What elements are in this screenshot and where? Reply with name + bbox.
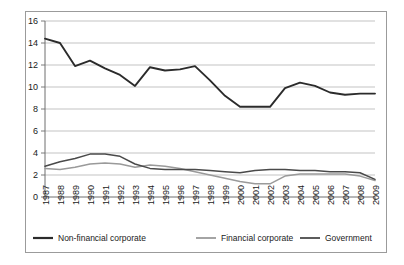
x-tick-label: 2006 [326, 185, 336, 205]
series-group [45, 39, 375, 184]
x-tick-label: 2005 [311, 185, 321, 205]
x-tick-label: 1998 [206, 185, 216, 205]
x-tick-label: 1990 [86, 185, 96, 205]
x-tick-label: 2008 [356, 185, 366, 205]
series-line [45, 39, 375, 107]
x-tick-label: 1993 [131, 185, 141, 205]
y-tick-label: 12 [28, 60, 38, 70]
x-tick-label: 1997 [191, 185, 201, 205]
x-tick-label: 2003 [281, 185, 291, 205]
line-chart: 0246810121416 19871988198919901991199219… [0, 0, 404, 265]
x-tick-label: 1995 [161, 185, 171, 205]
series-line [45, 163, 375, 184]
y-axis-ticks-group [41, 21, 45, 197]
x-tick-label: 2004 [296, 185, 306, 205]
y-tick-label: 14 [28, 38, 38, 48]
legend-label: Government [325, 233, 372, 243]
y-tick-label: 2 [33, 170, 38, 180]
x-tick-label: 1992 [116, 185, 126, 205]
x-tick-label: 1989 [71, 185, 81, 205]
x-tick-label: 1999 [221, 185, 231, 205]
y-tick-label: 10 [28, 82, 38, 92]
chart-legend: Non-financial corporateFinancial corpora… [33, 233, 372, 243]
x-tick-label: 2009 [371, 185, 381, 205]
y-tick-label: 4 [33, 148, 38, 158]
x-tick-label: 1987 [41, 185, 51, 205]
y-axis-labels-group: 0246810121416 [28, 16, 38, 202]
x-tick-label: 2001 [251, 185, 261, 205]
x-tick-label: 1994 [146, 185, 156, 205]
x-tick-label: 1988 [56, 185, 66, 205]
x-tick-label: 1991 [101, 185, 111, 205]
x-tick-label: 2007 [341, 185, 351, 205]
y-tick-label: 8 [33, 104, 38, 114]
x-tick-label: 2002 [266, 185, 276, 205]
x-tick-label: 2000 [236, 185, 246, 205]
y-tick-label: 6 [33, 126, 38, 136]
y-tick-label: 0 [33, 192, 38, 202]
x-axis-labels-group: 1987198819891990199119921993199419951996… [41, 185, 381, 205]
chart-figure: 0246810121416 19871988198919901991199219… [0, 0, 404, 265]
x-tick-label: 1996 [176, 185, 186, 205]
legend-label: Non-financial corporate [58, 233, 146, 243]
gridlines-group [45, 21, 375, 175]
legend-label: Financial corporate [221, 233, 294, 243]
y-tick-label: 16 [28, 16, 38, 26]
